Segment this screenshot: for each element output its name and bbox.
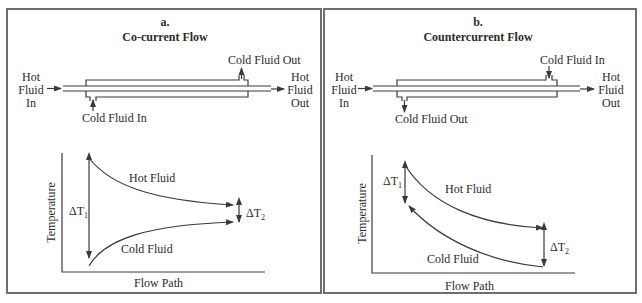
panel-a-title: Co-current Flow: [100, 31, 230, 44]
panel-a-delta-t1: ΔT1: [69, 205, 88, 219]
panel-a-xlabel: Flow Path: [134, 277, 183, 290]
panel-b-cold-out-label: Cold Fluid Out: [395, 113, 468, 126]
panel-a-cold-in-label: Cold Fluid In: [82, 112, 147, 125]
panel-b-letter: b.: [463, 16, 493, 29]
panel-b-cold-in-label: Cold Fluid In: [540, 54, 605, 67]
panel-a-cold-curve-label: Cold Fluid: [121, 243, 173, 256]
panel-b-delta-t1: ΔT1: [383, 175, 402, 189]
panel-b-hot-in-label: Hot Fluid In: [327, 71, 361, 110]
panel-a-cold-out-label: Cold Fluid Out: [228, 54, 301, 67]
panel-b-xlabel: Flow Path: [445, 280, 494, 293]
panel-a-hot-curve-label: Hot Fluid: [129, 172, 175, 185]
panel-b-cold-curve-label: Cold Fluid: [427, 253, 479, 266]
panel-a-hot-out-label: Hot Fluid Out: [283, 71, 317, 110]
panel-b-hot-out-label: Hot Fluid Out: [594, 71, 628, 110]
panel-b-ylabel: Temperature: [356, 179, 369, 249]
panel-b-hot-curve-label: Hot Fluid: [445, 183, 491, 196]
panel-b-heat-exchanger: [358, 66, 594, 112]
panel-a-ylabel: Temperature: [45, 178, 58, 248]
panel-b-delta-t2: ΔT2: [550, 241, 569, 255]
panel-a-delta-t2: ΔT2: [246, 207, 265, 221]
panel-b-title: Countercurrent Flow: [413, 31, 543, 44]
panel-a-hot-in-label: Hot Fluid In: [14, 71, 48, 110]
panel-a-letter: a.: [150, 16, 180, 29]
diagram-lineart: [0, 0, 642, 303]
panel-a-heat-exchanger: [47, 68, 284, 111]
